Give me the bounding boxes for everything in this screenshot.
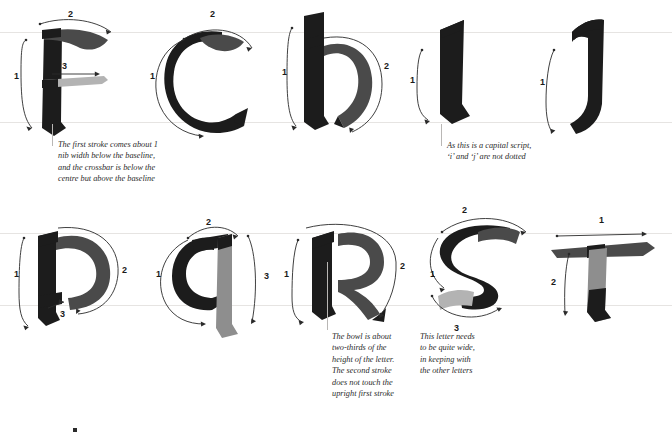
letter-c-glyph — [144, 10, 269, 145]
stroke-number-i-1: 1 — [410, 76, 415, 85]
letter-i-glyph — [406, 8, 516, 143]
stroke-number-p-2: 2 — [122, 266, 127, 275]
caption-f: The first stroke comes about 1 nib width… — [58, 139, 248, 185]
stroke-number-q-3: 3 — [264, 272, 269, 281]
stroke-number-c-2: 2 — [210, 10, 215, 19]
letter-cell-p: 1 2 3 — [12, 222, 137, 342]
letter-cell-i: 1 — [406, 8, 516, 143]
caption-leader-f — [52, 124, 53, 146]
caption-leader-r — [327, 262, 328, 330]
stroke-number-f-3: 3 — [62, 62, 67, 71]
stroke-number-j-1: 1 — [540, 78, 545, 87]
letter-t-glyph — [543, 218, 668, 333]
letter-cell-f: 1 2 3 — [14, 10, 134, 145]
calligraphy-sheet: 1 2 3 The first stroke comes about 1 nib… — [0, 0, 672, 446]
stroke-number-f-1: 1 — [14, 72, 19, 81]
letter-h-glyph — [282, 4, 407, 144]
letter-cell-j: 1 — [532, 8, 652, 148]
stroke-number-r-2: 2 — [400, 262, 405, 271]
stroke-number-r-1: 1 — [284, 270, 289, 279]
letter-cell-r: 1 2 — [288, 218, 418, 343]
stroke-number-f-2: 2 — [68, 10, 73, 19]
letter-cell-q: 1 2 3 — [152, 218, 282, 348]
caption-s: This letter needs to be quite wide, in k… — [420, 331, 520, 377]
stroke-number-h-1: 1 — [282, 68, 287, 77]
caption-leader-i — [441, 124, 442, 146]
page-corner-mark — [73, 428, 77, 432]
letter-cell-s: 1 2 3 — [422, 208, 552, 338]
stroke-number-q-2: 2 — [206, 218, 211, 227]
stroke-number-q-1: 1 — [156, 270, 161, 279]
stroke-number-p-3: 3 — [60, 310, 65, 319]
letter-p-glyph — [12, 222, 137, 342]
letter-r-glyph — [288, 218, 418, 343]
letter-s-glyph — [422, 208, 552, 338]
stroke-number-h-2: 2 — [384, 62, 389, 71]
stroke-number-t-1: 1 — [599, 216, 604, 225]
stroke-number-s-1: 1 — [430, 270, 435, 279]
stroke-number-t-2: 2 — [551, 278, 556, 287]
letter-cell-c: 1 2 — [144, 10, 269, 145]
letter-cell-t: 1 2 — [543, 218, 668, 333]
caption-r: The bowl is about two-thirds of the heig… — [332, 331, 432, 399]
stroke-number-p-1: 1 — [14, 270, 19, 279]
letter-f-glyph — [14, 10, 134, 145]
stroke-number-c-1: 1 — [150, 72, 155, 81]
letter-cell-h: 1 2 — [282, 4, 407, 144]
stroke-number-s-2: 2 — [462, 206, 467, 215]
letter-j-glyph — [532, 8, 652, 148]
letter-q-glyph — [152, 218, 282, 348]
